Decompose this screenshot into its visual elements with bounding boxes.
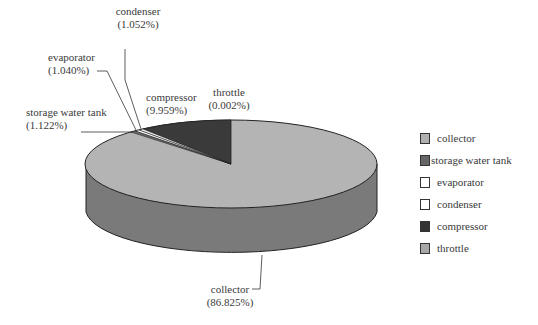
label-collector: collector (86.825%) (202, 283, 258, 309)
legend-label: collector (437, 132, 475, 144)
legend-swatch-condenser (420, 199, 430, 210)
legend: collector storage water tank evaporator … (420, 127, 512, 259)
legend-item-condenser: condenser (420, 193, 512, 215)
label-throttle: throttle (0.002%) (203, 86, 255, 112)
legend-swatch-storage-water-tank (420, 155, 430, 166)
label-evaporator-pct: (1.040%) (48, 64, 95, 77)
legend-swatch-evaporator (420, 177, 430, 188)
label-evaporator: evaporator (1.040%) (48, 51, 95, 77)
legend-label: condenser (437, 198, 482, 210)
label-condenser: condenser (1.052%) (108, 5, 168, 31)
legend-item-evaporator: evaporator (420, 171, 512, 193)
label-storage-pct: (1.122%) (26, 119, 107, 132)
label-condenser-name: condenser (108, 5, 168, 18)
legend-label: compressor (437, 220, 488, 232)
label-condenser-pct: (1.052%) (108, 18, 168, 31)
legend-swatch-collector (420, 133, 430, 144)
legend-label: evaporator (437, 176, 484, 188)
label-compressor-name: compressor (146, 91, 197, 104)
label-evaporator-name: evaporator (48, 51, 95, 64)
label-collector-pct: (86.825%) (202, 296, 258, 309)
label-collector-name: collector (202, 283, 258, 296)
label-throttle-pct: (0.002%) (203, 99, 255, 112)
legend-item-compressor: compressor (420, 215, 512, 237)
legend-item-storage-water-tank: storage water tank (420, 149, 512, 171)
legend-swatch-throttle (420, 243, 430, 254)
legend-label: throttle (437, 242, 469, 254)
legend-label: storage water tank (431, 154, 512, 166)
label-storage-water-tank: storage water tank (1.122%) (26, 106, 107, 132)
label-compressor: compressor (9.959%) (146, 91, 197, 117)
label-storage-name: storage water tank (26, 106, 107, 119)
legend-item-collector: collector (420, 127, 512, 149)
label-compressor-pct: (9.959%) (146, 104, 197, 117)
label-throttle-name: throttle (203, 86, 255, 99)
legend-item-throttle: throttle (420, 237, 512, 259)
legend-swatch-compressor (420, 221, 430, 232)
leader-condenser (125, 49, 141, 129)
